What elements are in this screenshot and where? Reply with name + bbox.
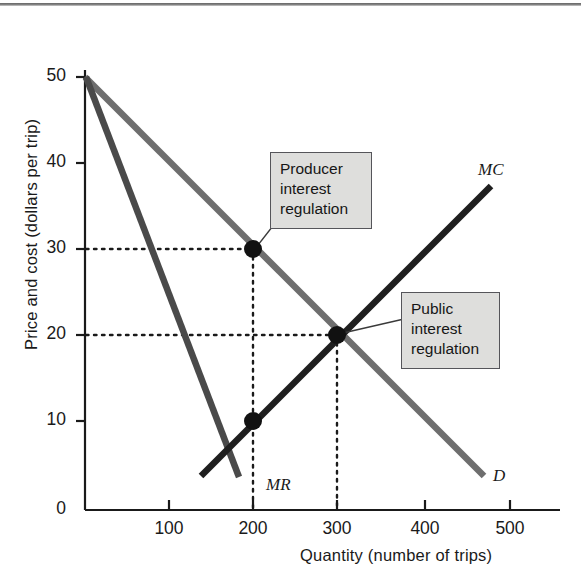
mr-mc-intersection-marker bbox=[244, 412, 262, 430]
x-tick-label-500: 500 bbox=[480, 518, 540, 539]
mr-curve-label: MR bbox=[266, 475, 291, 495]
public-callout-line-1: Public bbox=[411, 299, 490, 319]
x-tick-label-200: 200 bbox=[223, 518, 283, 539]
y-tick-label-20: 20 bbox=[24, 323, 66, 344]
producer-interest-regulation-callout: Producer interest regulation bbox=[270, 152, 372, 229]
producer-callout-line-3: regulation bbox=[280, 199, 362, 219]
public-interest-regulation-callout: Public interest regulation bbox=[401, 292, 500, 369]
public-interest-marker bbox=[328, 326, 346, 344]
economics-chart-figure: Price and cost (dollars per trip) Quanti… bbox=[0, 0, 581, 586]
x-axis-title: Quantity (number of trips) bbox=[300, 546, 492, 565]
y-tick-label-0: 0 bbox=[24, 498, 66, 519]
y-tick-label-10: 10 bbox=[24, 409, 66, 430]
producer-callout-line-1: Producer bbox=[280, 159, 362, 179]
public-callout-line-2: interest bbox=[411, 319, 490, 339]
x-tick-label-300: 300 bbox=[307, 518, 367, 539]
producer-interest-marker bbox=[244, 240, 262, 258]
x-tick-label-100: 100 bbox=[139, 518, 199, 539]
x-tick-label-400: 400 bbox=[395, 518, 455, 539]
y-tick-label-50: 50 bbox=[24, 65, 66, 86]
marginal-revenue-curve bbox=[86, 77, 239, 477]
demand-curve bbox=[85, 77, 484, 476]
y-tick-label-40: 40 bbox=[24, 151, 66, 172]
producer-callout-line-2: interest bbox=[280, 179, 362, 199]
y-tick-label-30: 30 bbox=[24, 237, 66, 258]
mc-curve-label: MC bbox=[478, 160, 504, 180]
d-curve-label: D bbox=[493, 466, 505, 486]
public-callout-line-3: regulation bbox=[411, 339, 490, 359]
